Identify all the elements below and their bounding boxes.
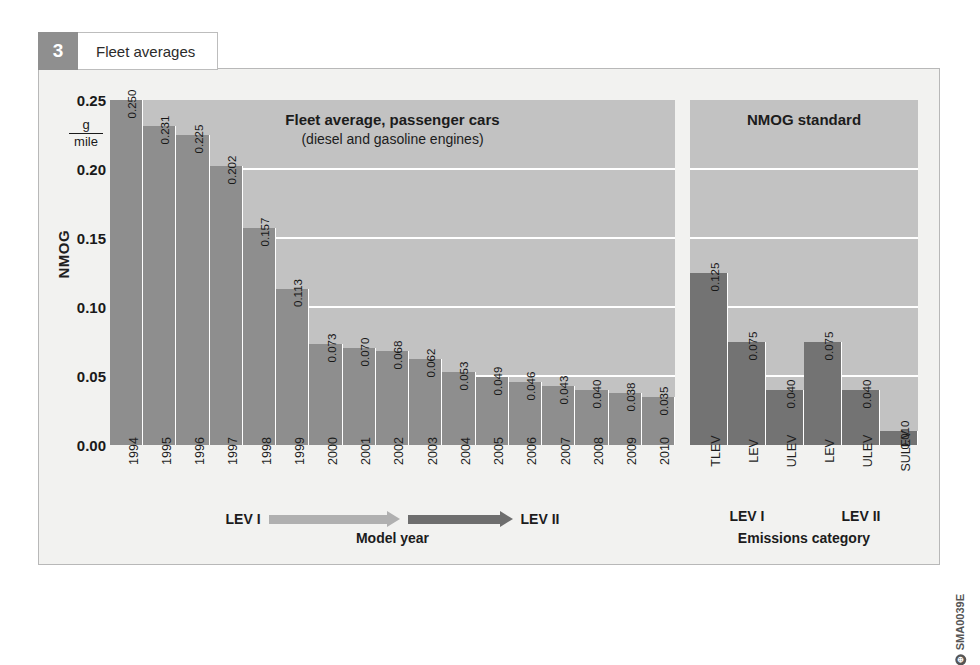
bar-nmog-standard-lev-3: 0.075 (804, 342, 842, 446)
x-tick-label: TLEV (709, 435, 723, 466)
x-tick-label: 2003 (426, 437, 440, 465)
lev-transition-legend: LEV I LEV II (110, 508, 675, 530)
x-tick-2006-12: 2006 (509, 449, 542, 507)
x-tick-ulev-2: ULEV (766, 449, 804, 507)
x-tick-2001-7: 2001 (343, 449, 376, 507)
bar-value-label: 0.040 (861, 379, 873, 408)
y-tick-005: 0.05 (77, 368, 106, 385)
bar-fleet-average-2004-10: 0.053 (442, 372, 475, 445)
nmog-standard-panel: NMOG standard 0.1250.0750.0400.0750.0400… (690, 100, 918, 445)
fleet-average-bars: 0.2500.2310.2250.2020.1570.1130.0730.070… (110, 100, 675, 445)
right-axis-caption: Emissions category (690, 530, 918, 546)
bar-fleet-average-1996-2: 0.225 (176, 135, 209, 446)
x-tick-label: 2007 (559, 437, 573, 465)
figure-header: 3 Fleet averages (38, 32, 218, 70)
lev-ii-arrow-head (500, 511, 513, 527)
x-tick-2000-6: 2000 (309, 449, 342, 507)
x-tick-label: 1996 (193, 437, 207, 465)
x-tick-1995-1: 1995 (143, 449, 176, 507)
source-watermark: ⊕ SMA0039E (954, 594, 966, 665)
x-tick-tlev-0: TLEV (690, 449, 728, 507)
x-tick-2008-14: 2008 (575, 449, 608, 507)
left-x-tick-labels: 1994199519961997199819992000200120022003… (110, 449, 675, 507)
bar-value-label: 0.231 (159, 116, 171, 145)
x-tick-2004-10: 2004 (442, 449, 475, 507)
y-tick-015: 0.15 (77, 230, 106, 247)
bar-fleet-average-1997-3: 0.202 (210, 166, 243, 445)
x-tick-label: 1998 (260, 437, 274, 465)
bar-value-label: 0.043 (558, 375, 570, 404)
watermark-mark-icon: ⊕ (955, 654, 966, 665)
bar-value-label: 0.225 (193, 124, 205, 153)
bar-value-label: 0.075 (747, 331, 759, 360)
x-tick-lev-3: LEV (804, 449, 842, 507)
x-tick-label: 1994 (127, 437, 141, 465)
bar-fleet-average-2003-9: 0.062 (409, 359, 442, 445)
legend-lev-i-label: LEV I (226, 511, 261, 527)
bar-value-label: 0.040 (591, 379, 603, 408)
y-axis-unit: g mile (68, 118, 104, 148)
bar-fleet-average-1995-1: 0.231 (143, 126, 176, 445)
x-tick-lev-1: LEV (728, 449, 766, 507)
left-axis-caption: Model year (110, 530, 675, 546)
x-tick-label: 2004 (459, 437, 473, 465)
figure-title-tab: Fleet averages (78, 32, 218, 70)
x-tick-1994-0: 1994 (110, 449, 143, 507)
x-tick-label: 2000 (326, 437, 340, 465)
nmog-standard-bars: 0.1250.0750.0400.0750.0400.010 (690, 100, 918, 445)
x-tick-2002-8: 2002 (376, 449, 409, 507)
x-tick-label: 2006 (525, 437, 539, 465)
bar-value-label: 0.202 (226, 156, 238, 185)
bar-value-label: 0.075 (823, 331, 835, 360)
watermark-code: SMA0039E (954, 594, 966, 650)
bar-fleet-average-1999-5: 0.113 (276, 289, 309, 445)
bar-value-label: 0.038 (625, 382, 637, 411)
x-tick-1999-5: 1999 (276, 449, 309, 507)
lev-i-arrow-head (387, 511, 400, 527)
x-tick-1997-3: 1997 (210, 449, 243, 507)
bar-nmog-standard-tlev-0: 0.125 (690, 273, 728, 446)
bar-value-label: 0.049 (492, 367, 504, 396)
bar-value-label: 0.068 (392, 341, 404, 370)
x-tick-label: SULEV (899, 431, 913, 472)
lev-i-arrow-shaft (269, 515, 387, 524)
x-tick-label: ULEV (785, 435, 799, 468)
bar-value-label: 0.046 (525, 371, 537, 400)
bar-value-label: 0.073 (326, 334, 338, 363)
x-tick-label: 2001 (359, 437, 373, 465)
x-tick-2010-16: 2010 (642, 449, 675, 507)
x-tick-2003-9: 2003 (409, 449, 442, 507)
x-tick-label: 2008 (592, 437, 606, 465)
category-group-lev-i: LEV I (690, 508, 804, 530)
figure-number-badge: 3 (38, 32, 78, 70)
x-tick-2009-15: 2009 (609, 449, 642, 507)
bar-value-label: 0.035 (658, 386, 670, 415)
x-tick-1998-4: 1998 (243, 449, 276, 507)
bar-value-label: 0.053 (458, 361, 470, 390)
bar-value-label: 0.070 (359, 338, 371, 367)
x-tick-1996-2: 1996 (176, 449, 209, 507)
fleet-average-panel: Fleet average, passenger cars (diesel an… (110, 100, 675, 445)
bar-value-label: 0.113 (292, 279, 304, 307)
lev-ii-arrow-icon (408, 515, 513, 524)
x-tick-label: 1997 (226, 437, 240, 465)
x-tick-label: 1999 (293, 437, 307, 465)
y-tick-020: 0.20 (77, 161, 106, 178)
x-tick-label: LEV (747, 439, 761, 463)
x-tick-2005-11: 2005 (476, 449, 509, 507)
bar-value-label: 0.157 (259, 218, 271, 247)
bar-fleet-average-2000-6: 0.073 (309, 344, 342, 445)
y-tick-025: 0.25 (77, 92, 106, 109)
x-tick-label: 2010 (658, 437, 672, 465)
bar-value-label: 0.125 (709, 262, 721, 291)
x-tick-label: 1995 (160, 437, 174, 465)
x-tick-label: 2005 (492, 437, 506, 465)
unit-numerator: g (68, 118, 104, 132)
x-tick-label: 2009 (625, 437, 639, 465)
lev-ii-arrow-shaft (408, 515, 500, 524)
bar-fleet-average-1998-4: 0.157 (243, 228, 276, 445)
x-tick-sulev-5: SULEV (880, 449, 918, 507)
y-tick-010: 0.10 (77, 299, 106, 316)
bar-fleet-average-2001-7: 0.070 (343, 348, 376, 445)
